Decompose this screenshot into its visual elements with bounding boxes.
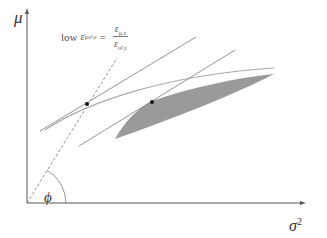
x-axis-arrow-icon xyxy=(300,201,306,205)
formula-equals: = xyxy=(100,31,106,43)
formula-lhs-subscript: μσ²,ε xyxy=(84,34,96,40)
diagram-canvas: μ σ2 ϕ low εμσ²,ε = εμ,ε εσ²,ε xyxy=(0,0,327,238)
y-axis-arrow-icon xyxy=(25,8,29,14)
formula-denominator: εσ²,ε xyxy=(112,37,129,51)
x-axis-label-exponent: 2 xyxy=(297,216,302,227)
tangency-point-2 xyxy=(150,100,154,104)
numerator-subscript: μ,ε xyxy=(119,30,126,36)
shaded-region xyxy=(115,74,274,139)
formula-annotation: low εμσ²,ε = εμ,ε εσ²,ε xyxy=(61,22,129,51)
denominator-subscript: σ²,ε xyxy=(118,45,127,51)
x-axis-label: σ2 xyxy=(289,216,302,235)
y-axis-label: μ xyxy=(14,8,23,28)
angle-label: ϕ xyxy=(44,189,52,206)
formula-fraction: εμ,ε εσ²,ε xyxy=(112,22,129,51)
tangency-point-1 xyxy=(85,102,89,106)
x-axis-label-base: σ xyxy=(289,217,297,234)
formula-prefix: low xyxy=(61,31,78,43)
formula-numerator: εμ,ε xyxy=(113,22,128,37)
